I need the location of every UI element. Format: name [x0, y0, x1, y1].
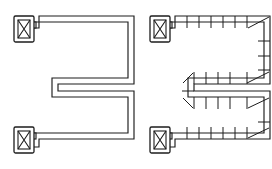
diagram-canvas: Cable Tray Serpentine Routing [0, 0, 272, 169]
third-run-segment-dividers [206, 97, 230, 109]
right-bottom-junction-box[interactable] [150, 127, 172, 153]
corner-fitting-middle-left-lower [183, 97, 194, 109]
right-top-junction-box[interactable] [150, 16, 172, 42]
corner-fitting-third-right [247, 97, 269, 109]
right-figure-segmented [0, 0, 272, 169]
